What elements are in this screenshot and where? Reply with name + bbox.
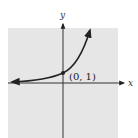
- point-0-1: [61, 71, 65, 75]
- point-label: (0, 1): [69, 71, 96, 82]
- chart: y x (0, 1): [0, 0, 138, 138]
- x-axis-label: x: [128, 78, 133, 88]
- y-axis-label: y: [59, 10, 66, 20]
